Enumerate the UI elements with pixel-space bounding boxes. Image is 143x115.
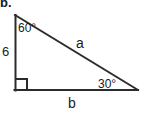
right-angle-square-icon: [16, 79, 28, 90]
base-right-angle-label: 30°: [98, 78, 116, 90]
item-number-label: b.: [0, 0, 12, 9]
hypotenuse-label: a: [76, 36, 84, 50]
vertical-leg-label: 6: [2, 45, 9, 58]
apex-angle-label: 60°: [18, 22, 36, 34]
base-leg-label: b: [68, 96, 76, 110]
triangle-figure: b. 60° 30° 6 a b: [0, 0, 143, 115]
